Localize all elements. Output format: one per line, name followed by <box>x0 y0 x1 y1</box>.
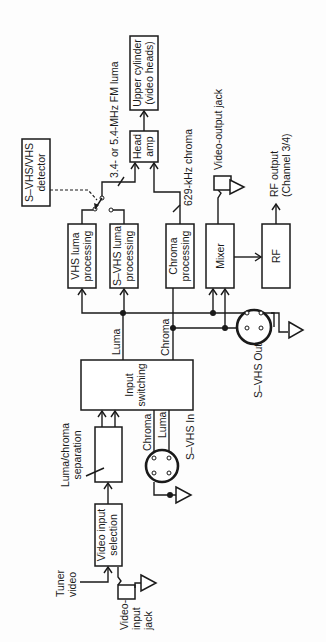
rf-output-label: RF output <box>268 151 280 197</box>
vhs-luma-processing-block: VHS luma processing <box>68 224 96 288</box>
svhs-out-label: S–VHS Out <box>252 344 264 398</box>
upper-cylinder-label: Upper cylinder <box>131 39 143 107</box>
head-amp-sublabel: amp <box>143 136 155 157</box>
input-switching-sublabel: switching <box>135 363 147 406</box>
video-input-selection-label: Video input <box>95 509 107 561</box>
chroma-processing-label: Chroma <box>167 237 179 275</box>
detector-sublabel: detector <box>35 153 47 191</box>
tuner-video-sublabel: video <box>66 572 78 597</box>
chroma-processing-sublabel: processing <box>179 230 191 281</box>
detector-label: S–VHS/VHS <box>23 143 35 202</box>
svhs-in-luma-label: Luma <box>156 412 168 438</box>
vhs-luma-label: VHS luma <box>69 232 81 279</box>
input-switching-label: Input <box>123 373 135 396</box>
diagram-svg: Upper cylinder (video heads) Head amp S–… <box>0 0 326 642</box>
fm-luma-label: 3.4- or 5.4-MHz FM luma <box>108 61 120 178</box>
rf-block: RF <box>262 224 290 288</box>
svhs-in-chroma-label: Chroma <box>141 413 153 451</box>
luma-chroma-separation-block <box>86 427 122 482</box>
upper-cylinder-sublabel: (video heads) <box>143 41 155 105</box>
mixer-label: Mixer <box>214 243 226 269</box>
wires <box>50 111 303 599</box>
chroma-629-label: 629-kHz chroma <box>182 129 194 206</box>
luma-chroma-separation-label: Luma/chroma <box>59 423 71 487</box>
block-diagram: Upper cylinder (video heads) Head amp S–… <box>0 0 326 642</box>
svhs-luma-processing-block: S–VHS luma processing <box>110 224 138 288</box>
head-amp-label: Head <box>131 134 143 159</box>
chroma-processing-block: Chroma processing <box>166 224 194 288</box>
head-amp-block: Head amp <box>130 131 158 162</box>
luma-chroma-separation-sublabel: separation <box>71 430 83 479</box>
vhs-luma-sublabel: processing <box>81 230 93 281</box>
svhs-in-label: S–VHS In <box>184 414 196 460</box>
input-switching-block: Input switching <box>81 360 193 410</box>
svhs-vhs-detector-block: S–VHS/VHS detector <box>22 139 50 206</box>
video-output-jack-label: Video-output jack <box>212 88 224 170</box>
video-input-selection-sublabel: selection <box>107 514 119 556</box>
svhs-luma-label: S–VHS luma <box>111 226 123 286</box>
chroma-bus-label: Chroma <box>159 318 171 356</box>
rf-output-channel-label: (Channel 3/4) <box>280 133 292 197</box>
luma-bus-label: Luma <box>110 329 122 355</box>
upper-cylinder-block: Upper cylinder (video heads) <box>130 36 158 110</box>
video-input-jack-label-2: input <box>130 607 142 630</box>
svhs-luma-sublabel: processing <box>123 230 135 281</box>
video-input-jack-label-3: jack <box>142 611 154 631</box>
tuner-video-label: Tuner <box>54 569 66 597</box>
video-input-selection-block: Video input selection <box>95 504 122 566</box>
rf-label: RF <box>270 249 282 263</box>
video-input-jack-label: Video- <box>118 599 130 630</box>
mixer-block: Mixer <box>206 224 234 288</box>
